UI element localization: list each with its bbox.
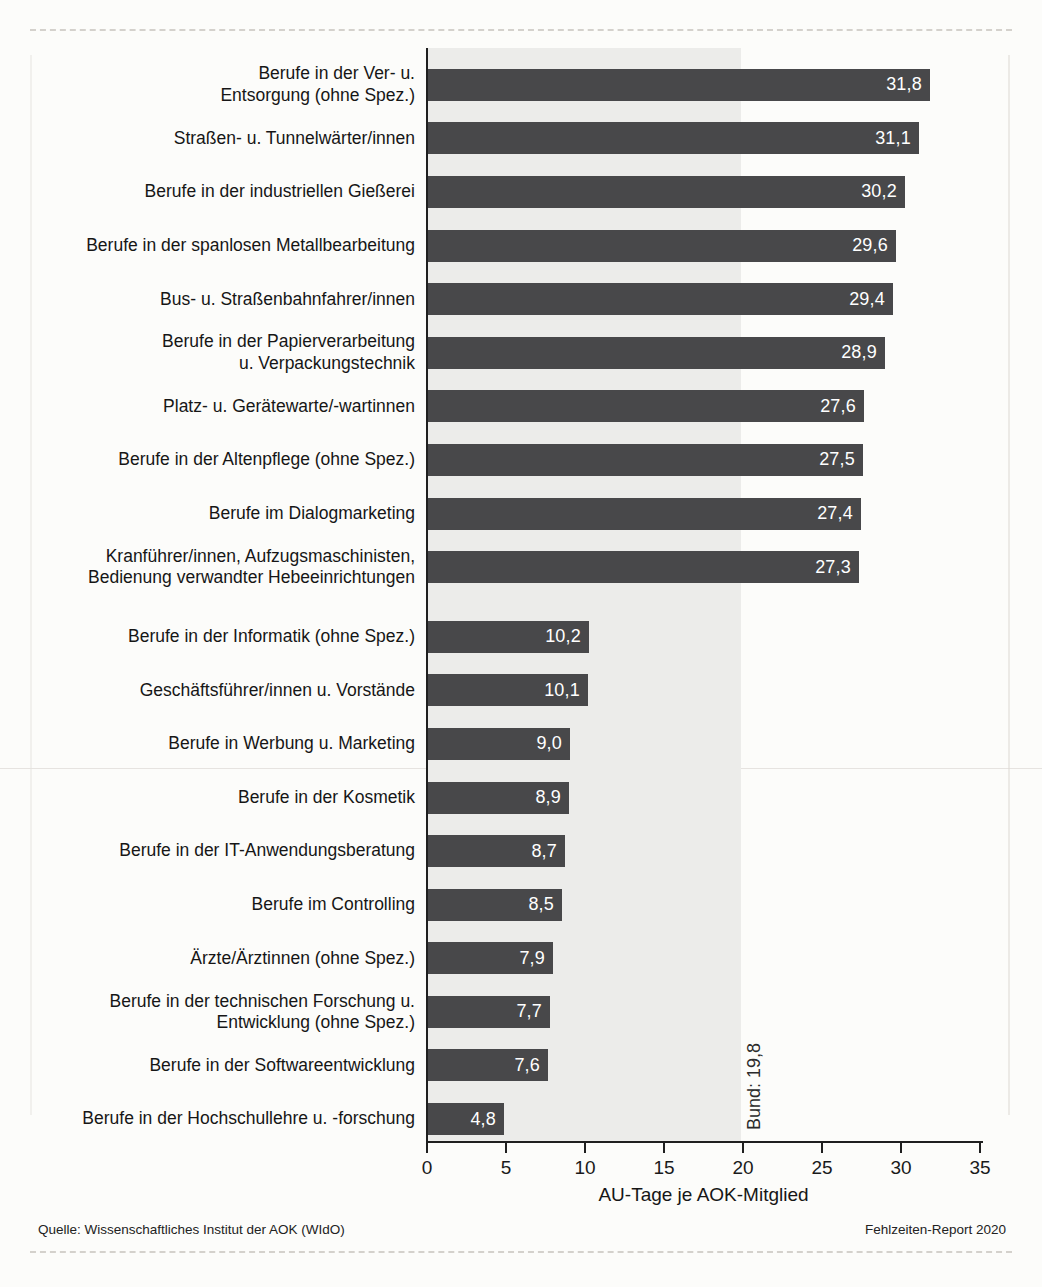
x-tick-label: 10 <box>563 1157 607 1179</box>
bar-row: Berufe in der Hochschullehre u. -forschu… <box>0 1092 990 1146</box>
bar-row: Berufe in der Papierverarbeitung u. Verp… <box>0 326 990 380</box>
bar-row: Bus- u. Straßenbahnfahrer/innen 29,4 <box>0 272 990 326</box>
category-label: Berufe in der Softwareentwicklung <box>0 1055 428 1076</box>
x-tick-mark <box>663 1143 665 1153</box>
bar: 29,4 <box>428 283 893 315</box>
bar-row: Ärzte/Ärztinnen (ohne Spez.) 7,9 <box>0 932 990 986</box>
category-label: Bus- u. Straßenbahnfahrer/innen <box>0 289 428 310</box>
category-label: Berufe in der Altenpflege (ohne Spez.) <box>0 449 428 470</box>
bar-row: Berufe in der Informatik (ohne Spez.) 10… <box>0 610 990 664</box>
bar-rows-container: Berufe in der Ver- u. Entsorgung (ohne S… <box>0 58 990 1146</box>
bar-value-label: 8,9 <box>535 787 561 808</box>
category-label: Berufe in Werbung u. Marketing <box>0 733 428 754</box>
x-axis-title: AU-Tage je AOK-Mitglied <box>427 1184 980 1206</box>
category-label: Geschäftsführer/innen u. Vorstände <box>0 680 428 701</box>
x-tick-mark <box>742 1143 744 1153</box>
category-label: Berufe in der Kosmetik <box>0 787 428 808</box>
bar-value-label: 29,6 <box>852 235 888 256</box>
bar-value-label: 7,9 <box>519 948 545 969</box>
x-tick-mark <box>426 1143 428 1153</box>
bar-row: Berufe in der Kosmetik 8,9 <box>0 771 990 825</box>
x-tick-mark <box>900 1143 902 1153</box>
bar: 31,8 <box>428 69 930 101</box>
category-label: Platz- u. Gerätewarte/-wartinnen <box>0 396 428 417</box>
report-note: Fehlzeiten-Report 2020 <box>865 1222 1006 1237</box>
category-label: Ärzte/Ärztinnen (ohne Spez.) <box>0 948 428 969</box>
bar-value-label: 31,8 <box>886 74 922 95</box>
bar: 28,9 <box>428 337 885 369</box>
bar-row: Platz- u. Gerätewarte/-wartinnen 27,6 <box>0 380 990 434</box>
scanned-chart-page: Berufe in der Ver- u. Entsorgung (ohne S… <box>0 0 1042 1287</box>
bar: 4,8 <box>428 1103 504 1135</box>
x-tick-label: 5 <box>484 1157 528 1179</box>
bar-row: Berufe in der Altenpflege (ohne Spez.) 2… <box>0 433 990 487</box>
bar-row: Berufe in der technischen Forschung u. E… <box>0 985 990 1039</box>
bar: 27,4 <box>428 498 861 530</box>
bar: 9,0 <box>428 728 570 760</box>
bar-value-label: 29,4 <box>849 289 885 310</box>
bar-value-label: 10,1 <box>544 680 580 701</box>
bar: 31,1 <box>428 122 919 154</box>
x-tick-label: 30 <box>879 1157 923 1179</box>
bar-value-label: 27,4 <box>817 503 853 524</box>
bar: 8,9 <box>428 782 569 814</box>
scan-crease-right <box>1008 55 1010 1115</box>
source-note: Quelle: Wissenschaftliches Institut der … <box>38 1222 345 1237</box>
bar: 30,2 <box>428 176 905 208</box>
group-spacer <box>0 594 990 610</box>
bar-row: Berufe in der Ver- u. Entsorgung (ohne S… <box>0 58 990 112</box>
x-tick-mark <box>979 1143 981 1153</box>
bar: 7,7 <box>428 996 550 1028</box>
bar: 27,5 <box>428 444 863 476</box>
bar-row: Berufe im Controlling 8,5 <box>0 878 990 932</box>
category-label: Berufe in der Papierverarbeitung u. Verp… <box>0 331 428 374</box>
category-label: Berufe in der Hochschullehre u. -forschu… <box>0 1108 428 1129</box>
bar: 29,6 <box>428 230 896 262</box>
category-label: Berufe in der Informatik (ohne Spez.) <box>0 626 428 647</box>
bar-value-label: 9,0 <box>536 733 562 754</box>
category-label: Berufe in der technischen Forschung u. E… <box>0 991 428 1034</box>
bar-value-label: 30,2 <box>861 181 897 202</box>
bar-row: Geschäftsführer/innen u. Vorstände 10,1 <box>0 664 990 718</box>
bar-value-label: 4,8 <box>470 1109 496 1130</box>
bar-row: Kranführer/innen, Aufzugsmaschinisten, B… <box>0 540 990 594</box>
bar-value-label: 27,3 <box>815 557 851 578</box>
bar-row: Berufe in der spanlosen Metallbearbeitun… <box>0 219 990 273</box>
bar-value-label: 31,1 <box>875 128 911 149</box>
bar-row: Berufe in der industriellen Gießerei 30,… <box>0 165 990 219</box>
bar-value-label: 10,2 <box>545 626 581 647</box>
category-label: Berufe in der IT-Anwendungsberatung <box>0 840 428 861</box>
x-tick-label: 15 <box>642 1157 686 1179</box>
bar-value-label: 7,7 <box>516 1001 542 1022</box>
bar-row: Berufe in der Softwareentwicklung 7,6 <box>0 1039 990 1093</box>
bar-value-label: 27,6 <box>820 396 856 417</box>
bar: 10,1 <box>428 674 588 706</box>
bar-value-label: 7,6 <box>514 1055 540 1076</box>
x-tick-label: 0 <box>405 1157 449 1179</box>
bar: 27,6 <box>428 390 864 422</box>
category-label: Berufe im Controlling <box>0 894 428 915</box>
x-tick-label: 20 <box>721 1157 765 1179</box>
category-label: Berufe in der industriellen Gießerei <box>0 181 428 202</box>
bar-value-label: 27,5 <box>819 449 855 470</box>
category-label: Berufe in der spanlosen Metallbearbeitun… <box>0 235 428 256</box>
bar-row: Straßen- u. Tunnelwärter/innen 31,1 <box>0 112 990 166</box>
x-tick-label: 35 <box>958 1157 1002 1179</box>
category-label: Kranführer/innen, Aufzugsmaschinisten, B… <box>0 546 428 589</box>
bar: 7,9 <box>428 942 553 974</box>
bar-value-label: 8,5 <box>528 894 554 915</box>
x-tick-label: 25 <box>800 1157 844 1179</box>
bar: 8,5 <box>428 889 562 921</box>
bar-row: Berufe in Werbung u. Marketing 9,0 <box>0 717 990 771</box>
x-tick-mark <box>505 1143 507 1153</box>
bund-reference-label: Bund: 19,8 <box>744 1030 765 1130</box>
bottom-dashed-rule <box>30 1251 1012 1253</box>
category-label: Straßen- u. Tunnelwärter/innen <box>0 128 428 149</box>
bar-row: Berufe im Dialogmarketing 27,4 <box>0 487 990 541</box>
top-dashed-rule <box>30 29 1012 31</box>
bar: 10,2 <box>428 621 589 653</box>
category-label: Berufe im Dialogmarketing <box>0 503 428 524</box>
category-label: Berufe in der Ver- u. Entsorgung (ohne S… <box>0 63 428 106</box>
bar: 8,7 <box>428 835 565 867</box>
bar: 27,3 <box>428 551 859 583</box>
